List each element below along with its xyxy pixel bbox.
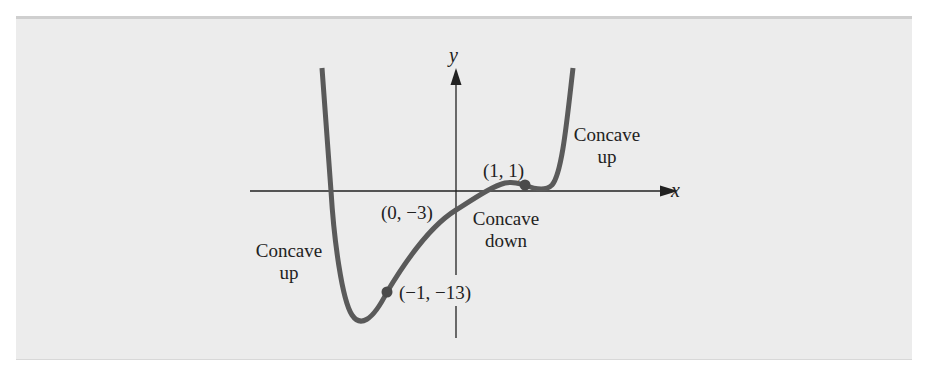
point-marker-m1-m13 xyxy=(382,287,393,298)
y-axis-arrow-icon xyxy=(451,68,462,85)
annotation-line: Concave xyxy=(469,208,543,230)
annotation-line: down xyxy=(469,230,543,252)
label-point-0-m3: (0, −3) xyxy=(381,202,433,224)
annotation-line: Concave xyxy=(252,240,326,262)
annotation-line: Concave xyxy=(572,124,642,146)
annotation-concave-up-right: Concave up xyxy=(572,124,642,168)
annotation-concave-up-left: Concave up xyxy=(252,240,326,284)
annotation-line: up xyxy=(252,262,326,284)
concavity-graph xyxy=(0,0,932,383)
label-point-m1-m13: (−1, −13) xyxy=(399,282,471,304)
label-point-1-1: (1, 1) xyxy=(483,160,524,182)
y-axis-label: y xyxy=(449,44,458,67)
annotation-line: up xyxy=(572,146,642,168)
annotation-concave-down: Concave down xyxy=(469,208,543,252)
x-axis-label: x xyxy=(671,179,680,202)
